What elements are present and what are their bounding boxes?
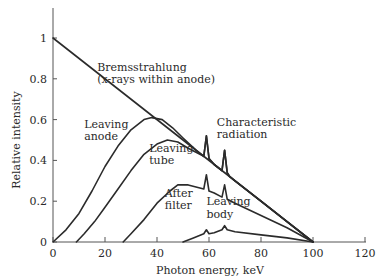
x-tick-label: 80 [254, 247, 268, 260]
annotation-label: radiation [217, 128, 268, 141]
x-tick-label: 120 [355, 247, 376, 260]
curve-leaving-tube [76, 136, 313, 242]
y-tick-label: 0.2 [30, 195, 48, 208]
xray-spectrum-chart: 00.20.40.60.81 020406080100120 Bremsstra… [0, 0, 392, 280]
annotation-label: (x-rays within anode) [97, 73, 215, 86]
annotation-label: Leaving [84, 118, 128, 131]
y-tick-label: 0 [40, 236, 47, 249]
y-tick-label: 0.8 [30, 73, 48, 86]
annotation-label: filter [165, 199, 193, 212]
annotation-label: Characteristic [217, 116, 296, 129]
x-tick-label: 100 [303, 247, 324, 260]
x-ticks: 020406080100120 [50, 237, 376, 260]
y-axis-title: Relative intensity [10, 90, 23, 188]
x-tick-label: 60 [202, 247, 216, 260]
x-tick-label: 0 [50, 247, 57, 260]
annotation-label: Leaving [149, 142, 193, 155]
x-tick-label: 40 [150, 247, 164, 260]
annotation-label: body [206, 208, 234, 221]
annotation-label: Leaving [206, 195, 250, 208]
curve-leaving-body [183, 226, 313, 242]
y-tick-label: 1 [40, 32, 47, 45]
annotation-label: tube [149, 154, 174, 167]
y-tick-label: 0.4 [30, 154, 48, 167]
annotation-label: After [164, 187, 194, 200]
annotation-label: anode [84, 130, 118, 143]
y-tick-label: 0.6 [30, 114, 48, 127]
x-tick-label: 20 [98, 247, 112, 260]
x-axis-title: Photon energy, keV [156, 264, 265, 277]
annotations: Bremsstrahlung(x-rays within anode)Leavi… [84, 61, 296, 221]
annotation-label: Bremsstrahlung [97, 61, 187, 74]
